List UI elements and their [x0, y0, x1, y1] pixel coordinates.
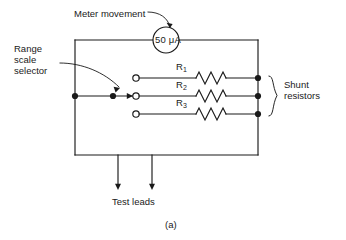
- shunt-line-2: resistors: [284, 90, 320, 101]
- contact-terminal-r2[interactable]: [133, 93, 139, 99]
- figure-caption: (a): [165, 219, 177, 230]
- wiper-arrowhead: [127, 93, 133, 99]
- node-left-rail-junction: [72, 93, 78, 99]
- test-lead-right-arrowhead: [149, 184, 155, 190]
- range-selector-line-1: Range: [14, 43, 42, 54]
- circuit-diagram-figure: 50 μA Meter movement Rangescaleselector …: [0, 0, 346, 240]
- resistor-label-r1-base: R: [176, 61, 183, 72]
- test-leads-label: Test leads: [112, 196, 155, 207]
- range-scale-selector-label: Rangescaleselector: [14, 43, 47, 77]
- meter-movement-label: Meter movement: [74, 8, 145, 19]
- contact-terminal-r1[interactable]: [133, 75, 139, 81]
- shunt-line-1: Shunt: [284, 79, 309, 90]
- resistor-label-r2: R2: [176, 79, 187, 92]
- resistor-symbol-r3: [196, 108, 226, 120]
- resistor-label-r2-base: R: [176, 79, 183, 90]
- meter-movement-leader-line: [148, 12, 170, 27]
- node-wiper-pivot: [110, 93, 116, 99]
- range-selector-line-3: selector: [14, 65, 47, 76]
- resistor-label-r3: R3: [176, 97, 187, 110]
- resistor-label-r3-subscript: 3: [183, 102, 187, 109]
- test-lead-left-arrowhead: [115, 184, 121, 190]
- node-r3-right-rail: [255, 111, 261, 117]
- range-selector-line-2: scale: [14, 54, 36, 65]
- node-r1-right-rail: [255, 75, 261, 81]
- resistor-label-r1: R1: [176, 61, 187, 74]
- resistor-label-r3-base: R: [176, 97, 183, 108]
- range-scale-selector-leader-line: [60, 63, 119, 87]
- meter-value-label: 50 μA: [151, 34, 185, 45]
- resistor-symbol-r1: [196, 72, 226, 84]
- shunt-resistors-label: Shuntresistors: [284, 79, 320, 101]
- resistor-label-r1-subscript: 1: [183, 66, 187, 73]
- shunt-resistors-brace: [269, 76, 277, 116]
- contact-terminal-r3[interactable]: [133, 111, 139, 117]
- node-r2-right-rail: [255, 93, 261, 99]
- range-scale-selector-leader-arrowhead: [114, 87, 120, 93]
- resistor-label-r2-subscript: 2: [183, 84, 187, 91]
- resistor-symbol-r2: [196, 90, 226, 102]
